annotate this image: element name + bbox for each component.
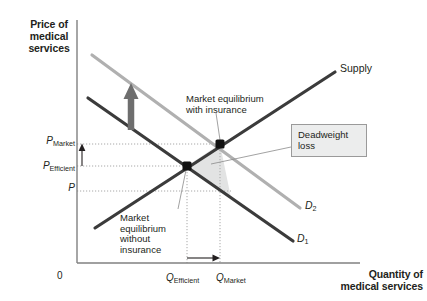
leader-line-eq-with [216,113,220,140]
tick-label-p-base: P [68,182,75,193]
annotation-equilibrium-with-insurance: Market equilibrium with insurance [186,94,292,115]
y-axis-title: Price of medical services [20,19,78,54]
curve-label-demand-1-sub: 1 [305,237,309,246]
demand-curve-2 [92,55,300,208]
economics-supply-demand-figure: Price of medical services Quantity of me… [0,0,427,301]
tick-label-p-market: PMarket [13,135,75,146]
equilibrium-marker-with-insurance [216,140,225,149]
curve-label-demand-1: D1 [297,233,309,245]
tick-label-q-efficient-base: Q [166,272,174,283]
tick-label-q-efficient: QEfficient [166,272,199,283]
curve-label-demand-2-sub: 2 [313,204,317,213]
tick-label-p-efficient-sub: Efficient [50,164,75,173]
annotation-deadweight-loss-box: Deadweight loss [291,124,367,157]
price-increase-arrow [79,144,86,167]
tick-label-q-market-base: Q [216,272,224,283]
tick-label-p-market-sub: Market [53,139,75,148]
quantity-increase-arrow [187,255,220,262]
curve-label-demand-2: D2 [305,200,317,212]
tick-label-q-market: QMarket [216,272,246,283]
curve-label-demand-2-base: D [305,199,313,211]
annotation-equilibrium-without-insurance: Market equilibrium without insurance [120,213,190,256]
tick-label-p-efficient: PEfficient [10,160,75,171]
x-axis-title: Quantity of medical services [333,269,423,293]
tick-label-p: P [45,182,75,193]
tick-label-p-efficient-base: P [43,160,50,171]
tick-label-q-market-sub: Market [224,276,246,285]
curve-label-supply: Supply [340,63,372,75]
tick-label-q-efficient-sub: Efficient [174,276,199,285]
origin-label: 0 [57,270,63,281]
equilibrium-marker-without-insurance [183,162,192,171]
curve-label-demand-1-base: D [297,232,305,244]
leader-line-eq-without [178,170,186,209]
